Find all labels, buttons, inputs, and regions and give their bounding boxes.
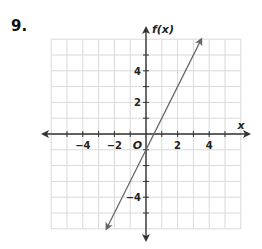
axes	[43, 28, 249, 240]
x-axis-label: x	[236, 119, 245, 132]
y-tick-label: −4	[126, 192, 141, 203]
origin-label: O	[133, 139, 142, 152]
y-tick-label: 4	[134, 66, 141, 77]
x-tick-label: 2	[174, 140, 181, 151]
tick-labels: −4−22442−4Oxf(x)	[75, 23, 245, 203]
y-axis-label: f(x)	[152, 23, 174, 36]
coordinate-plane: −4−22442−4Oxf(x)	[0, 0, 262, 249]
y-tick-label: 2	[134, 97, 141, 108]
x-tick-label: 4	[206, 140, 213, 151]
x-tick-label: −2	[107, 140, 122, 151]
x-tick-label: −4	[75, 140, 90, 151]
